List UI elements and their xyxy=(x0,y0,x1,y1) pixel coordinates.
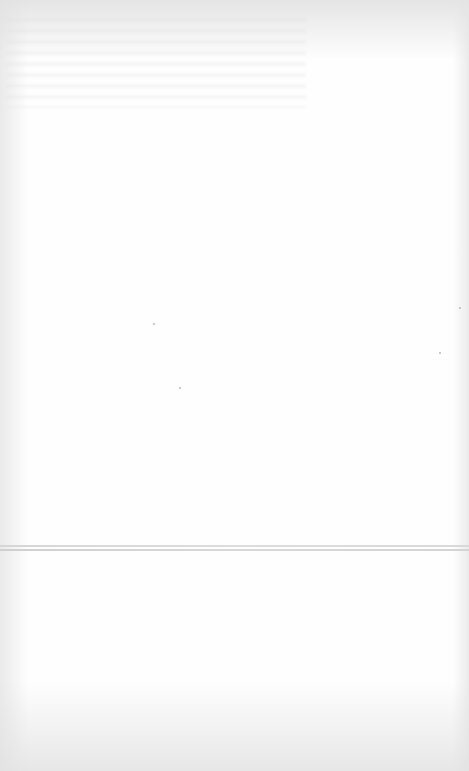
document-page xyxy=(0,0,469,771)
crease-line xyxy=(0,545,469,547)
paper-speck xyxy=(439,352,441,354)
right-edge-shadow xyxy=(453,0,469,771)
bottom-edge-shadow xyxy=(0,681,469,771)
crease-line xyxy=(0,549,469,551)
paper-speck xyxy=(459,307,461,309)
page-fold-crease xyxy=(0,544,469,554)
paper-speck xyxy=(179,387,181,389)
top-edge-shadow xyxy=(0,0,469,60)
left-edge-shadow xyxy=(0,0,28,771)
paper-speck xyxy=(153,323,155,325)
